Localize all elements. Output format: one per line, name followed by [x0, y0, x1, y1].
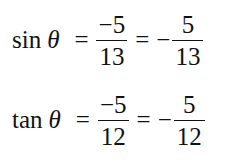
- equals-sign: =: [74, 26, 88, 54]
- equals-sign: =: [137, 106, 151, 134]
- numerator: 5: [180, 92, 199, 120]
- equals-sign: =: [135, 26, 149, 54]
- numerator: −5: [96, 12, 129, 40]
- sin-equation: sin θ = −5 13 = − 5 13: [12, 4, 203, 76]
- function-name: sin: [12, 26, 41, 54]
- denominator: 12: [174, 120, 205, 149]
- fraction: −5 12: [97, 92, 130, 149]
- denominator: 13: [96, 40, 127, 69]
- variable-theta: θ: [49, 106, 61, 134]
- minus-sign: −: [156, 26, 170, 54]
- equals-sign: =: [76, 106, 90, 134]
- function-name: tan: [12, 106, 43, 134]
- minus-sign: −: [158, 106, 172, 134]
- fraction: 5 13: [172, 12, 203, 69]
- denominator: 13: [172, 40, 203, 69]
- variable-theta: θ: [47, 26, 59, 54]
- denominator: 12: [98, 120, 129, 149]
- numerator: 5: [179, 12, 198, 40]
- numerator: −5: [97, 92, 130, 120]
- fraction: 5 12: [174, 92, 205, 149]
- tan-equation: tan θ = −5 12 = − 5 12: [12, 84, 205, 156]
- fraction: −5 13: [96, 12, 129, 69]
